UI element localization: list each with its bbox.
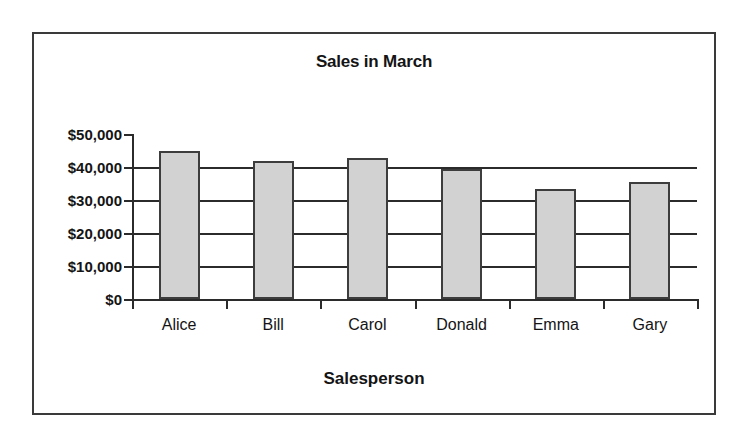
x-axis-tick (320, 299, 322, 309)
gridline (132, 266, 697, 268)
x-axis-tick (132, 299, 134, 309)
y-axis-tick-label: $10,000 (68, 258, 122, 275)
x-axis-title: Salesperson (34, 369, 714, 389)
x-axis-tick-label: Emma (533, 316, 579, 334)
plot-area: $0$10,000$20,000$30,000$40,000$50,000 Al… (132, 134, 697, 299)
y-axis-tick-label: $30,000 (68, 192, 122, 209)
bar-emma (535, 189, 576, 299)
bar-bill (253, 161, 294, 299)
chart-figure: Sales in March $0$10,000$20,000$30,000$4… (0, 0, 753, 436)
x-axis-tick (603, 299, 605, 309)
y-axis-tick (124, 134, 132, 136)
gridline (132, 167, 697, 169)
y-axis-tick (124, 299, 132, 301)
y-axis-tick (124, 266, 132, 268)
chart-title: Sales in March (34, 52, 714, 72)
y-axis-tick (124, 233, 132, 235)
gridline (132, 233, 697, 235)
y-axis-tick-label: $50,000 (68, 126, 122, 143)
y-axis-tick-label: $40,000 (68, 159, 122, 176)
x-axis-tick-label: Carol (348, 316, 386, 334)
y-axis-spine (132, 134, 134, 299)
y-axis-tick (124, 200, 132, 202)
y-axis-tick-label: $0 (105, 291, 122, 308)
y-axis-tick-label: $20,000 (68, 225, 122, 242)
bar-carol (347, 158, 388, 299)
x-axis-tick (697, 299, 699, 309)
bar-donald (441, 169, 482, 299)
x-axis-tick-label: Donald (436, 316, 487, 334)
chart-frame: Sales in March $0$10,000$20,000$30,000$4… (32, 32, 716, 415)
x-axis-tick-label: Alice (162, 316, 197, 334)
x-axis-tick (226, 299, 228, 309)
gridline (132, 200, 697, 202)
bar-alice (159, 151, 200, 300)
x-axis-tick-label: Gary (633, 316, 668, 334)
y-axis-tick (124, 167, 132, 169)
x-axis-tick-label: Bill (263, 316, 284, 334)
bar-gary (629, 182, 670, 299)
x-axis-tick (509, 299, 511, 309)
x-axis-tick (415, 299, 417, 309)
